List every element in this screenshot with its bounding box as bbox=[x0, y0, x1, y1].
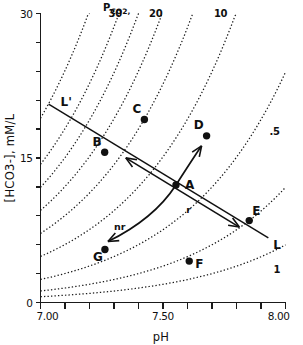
data-point-C[interactable] bbox=[141, 116, 148, 123]
data-point-label-D: D bbox=[194, 118, 204, 132]
x-axis-tick-label: 7.50 bbox=[152, 310, 174, 322]
isobar-curves bbox=[41, 14, 286, 297]
pco2-curve-label-7: .5 bbox=[269, 126, 279, 137]
data-point-label-C: C bbox=[133, 102, 142, 116]
respiratory-axis-arrow-shaft bbox=[126, 158, 240, 227]
pco2-curve-label-1: 20 bbox=[149, 8, 163, 19]
pco2-curve-label-0: 30 bbox=[109, 8, 123, 19]
y-axis-tick-label: 15 bbox=[20, 152, 33, 164]
data-point-label-F: F bbox=[195, 257, 203, 271]
davenport-diagram-figure: 015307.007.508.00pH[HCO3-], mM/L L'L nrr… bbox=[0, 0, 303, 345]
data-point-label-A: A bbox=[185, 178, 195, 192]
trajectory-label-nr: nr bbox=[114, 221, 126, 232]
pco2-isobar-3 bbox=[41, 72, 286, 279]
buffer-line-end-label: L bbox=[273, 238, 281, 252]
buffer-line-group: L'L bbox=[49, 95, 282, 252]
x-axis-tick-label: 8.00 bbox=[268, 310, 290, 322]
data-point-E[interactable] bbox=[246, 217, 253, 224]
data-point-label-E: E bbox=[252, 204, 260, 218]
respiratory-arrowhead-upper bbox=[126, 158, 137, 167]
x-axis-title: pH bbox=[153, 330, 170, 344]
data-point-A[interactable] bbox=[172, 181, 179, 188]
buffer-line-start-label: L' bbox=[61, 95, 72, 109]
pco2-isobar-5 bbox=[41, 14, 141, 188]
pco2-isobar-9 bbox=[41, 245, 286, 297]
y-axis-tick-label: 0 bbox=[26, 297, 32, 309]
pco2-curve-label-8: 1 bbox=[274, 264, 281, 275]
data-point-label-G: G bbox=[93, 250, 103, 264]
data-point-B[interactable] bbox=[101, 149, 108, 156]
pco2-isobar-1 bbox=[41, 14, 194, 234]
y-axis-title: [HCO3-], mM/L bbox=[3, 113, 17, 202]
trajectory-group: nrr bbox=[108, 146, 239, 242]
buffer-line bbox=[49, 104, 269, 238]
x-axis-tick-label: 7.00 bbox=[37, 310, 59, 322]
axes: 015307.007.508.00pH[HCO3-], mM/L bbox=[3, 8, 290, 344]
data-point-F[interactable] bbox=[186, 257, 193, 264]
annotations: PCO2,302010.51 bbox=[103, 2, 281, 275]
data-point-D[interactable] bbox=[203, 132, 210, 139]
pco2-curve-label-2: 10 bbox=[214, 8, 228, 19]
data-point-label-B: B bbox=[93, 135, 102, 149]
data-points: ABCDEFG bbox=[93, 102, 261, 271]
y-axis-tick-label: 30 bbox=[20, 8, 33, 20]
trajectory-label-r: r bbox=[186, 204, 191, 215]
chart-canvas: 015307.007.508.00pH[HCO3-], mM/L L'L nrr… bbox=[0, 0, 303, 345]
